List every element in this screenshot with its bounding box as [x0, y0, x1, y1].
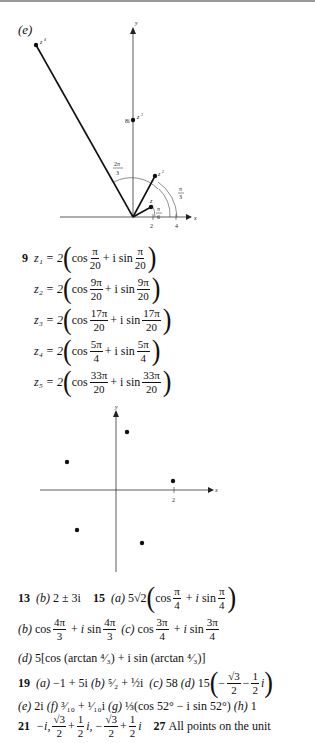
svg-text:z: z — [39, 39, 43, 45]
answer-13-15: 13 (b) 2 ± 3i 15 (a) 5√2 (cos π4 + i sin… — [18, 585, 236, 611]
eq-z4: z₄ = 2 (cos 5π4 + i sin 5π4) — [34, 338, 161, 364]
svg-text:z: z — [149, 198, 153, 204]
svg-text:π: π — [179, 186, 182, 192]
svg-text:z: z — [157, 171, 161, 177]
x-axis-label: x — [193, 215, 197, 221]
svg-text:3: 3 — [116, 170, 119, 176]
figure-e-diagram: y x z4 z3 8i z2 z 2 4 2π 3 π 3 π 6 — [0, 0, 315, 230]
svg-text:4: 4 — [44, 37, 46, 42]
figure-9-diagram: y x 2 — [0, 400, 315, 580]
svg-text:3: 3 — [141, 112, 143, 117]
svg-text:2: 2 — [172, 497, 175, 503]
eq-z3: z₃ = 2 (cos 17π20 + i sin 17π20) — [34, 307, 172, 333]
answer-19-e-h: (e) 2i (f) ³⁄₁₀ + ¹⁄₁₀i (g) ⅓(cos 52° − … — [18, 699, 257, 714]
answer-19-a-d: 19 (a) −1 + 5i (b) ⁵⁄₂ + ½i (c) 58 (d) 1… — [18, 670, 273, 696]
svg-text:z: z — [136, 114, 140, 120]
answer-15-bc: (b) cos 4π3 + i sin 4π3 (c) cos 3π4 + i … — [18, 617, 221, 642]
eq-z2: z₂ = 2 (cos 9π20 + i sin 9π20) — [34, 276, 161, 302]
svg-text:2π: 2π — [114, 161, 120, 167]
svg-text:8i: 8i — [125, 118, 130, 124]
svg-text:4: 4 — [175, 223, 178, 229]
svg-text:x: x — [214, 487, 218, 493]
eq-z5: z₅ = 2 (cos 33π20 + i sin 33π20) — [34, 369, 172, 395]
svg-text:y: y — [114, 404, 118, 410]
answer-15-d: (d) 5[cos (arctan ⁴⁄₃) + i sin (arctan ⁴… — [18, 651, 205, 666]
svg-text:2: 2 — [150, 223, 153, 229]
answer-21-27: 21 −i, √32 + 12i, − √32 + 12i 27 All poi… — [18, 714, 271, 739]
svg-text:2: 2 — [162, 169, 164, 174]
svg-text:6: 6 — [157, 214, 160, 220]
svg-text:3: 3 — [179, 194, 182, 200]
y-axis-label: y — [134, 20, 138, 26]
eq-z1: 9 z₁ = 2 (cos π20 + i sin π20) — [22, 245, 156, 271]
svg-text:π: π — [157, 206, 160, 212]
